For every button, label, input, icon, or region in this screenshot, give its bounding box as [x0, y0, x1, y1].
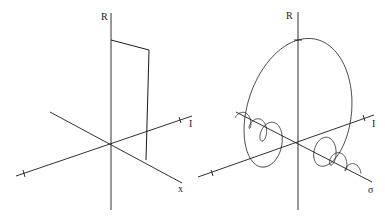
left-x-axis [50, 112, 182, 183]
right-label-sigma: σ [368, 184, 374, 195]
right-i-axis-tick-neg [211, 170, 213, 176]
right-i-axis [198, 115, 374, 177]
right-panel: R I σ [198, 10, 375, 210]
right-label-r: R [286, 10, 293, 21]
left-label-r: R [101, 11, 108, 22]
left-label-i: I [189, 118, 192, 129]
figure: R I x R I σ [0, 0, 385, 218]
left-label-x: x [178, 183, 183, 194]
left-panel: R I x [16, 11, 192, 210]
left-i-axis [16, 116, 192, 176]
right-label-i: I [372, 118, 375, 129]
